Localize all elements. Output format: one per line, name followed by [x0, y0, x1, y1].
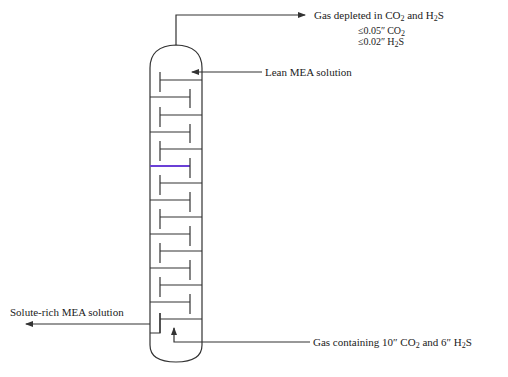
tray-15-bottom: [160, 313, 202, 333]
tray-13: [160, 277, 202, 297]
gas-inlet-label: Gas containing 10″ CO2 and 6″ H2S: [313, 336, 472, 352]
absorption-column-diagram: [0, 0, 508, 377]
top-gas-outlet-line: [176, 15, 305, 45]
top-outlet-label: Gas depleted in CO2 and H2S: [314, 9, 444, 25]
tray-6-accent: [150, 158, 190, 178]
tray-5: [160, 141, 202, 161]
column-shell: [150, 45, 202, 362]
top-outlet-label-text-2: and H: [404, 9, 433, 21]
gas-inlet-label-text-2: and 6″ H: [420, 336, 462, 348]
lean-mea-label: Lean MEA solution: [265, 66, 352, 78]
tray-7: [160, 175, 202, 195]
gas-inlet-line: [174, 328, 310, 342]
h2s-spec-suffix: S: [398, 36, 404, 47]
tray-4: [150, 124, 190, 143]
top-outlet-label-text-3: S: [438, 9, 444, 21]
top-outlet-label-text-1: Gas depleted in CO: [314, 9, 400, 21]
tray-8: [150, 192, 190, 212]
column-trays: [150, 72, 202, 333]
rich-mea-label: Solute-rich MEA solution: [10, 306, 124, 318]
gas-inlet-label-text-3: S: [466, 336, 472, 348]
tray-2: [150, 89, 190, 108]
co2-spec-text: ≤0.05″ CO: [358, 25, 401, 36]
gas-inlet-label-text-1: Gas containing 10″ CO: [313, 336, 416, 348]
tray-10: [150, 226, 190, 246]
h2s-spec-text: ≤0.02″ H: [358, 36, 394, 47]
tray-9: [160, 209, 202, 229]
tray-14: [150, 294, 190, 314]
rich-outlet-sump: [150, 313, 160, 333]
tray-3: [160, 107, 202, 127]
h2s-spec: ≤0.02″ H2S: [358, 37, 404, 50]
tray-11: [160, 243, 202, 263]
tray-12: [150, 260, 190, 280]
tray-1: [160, 72, 202, 92]
